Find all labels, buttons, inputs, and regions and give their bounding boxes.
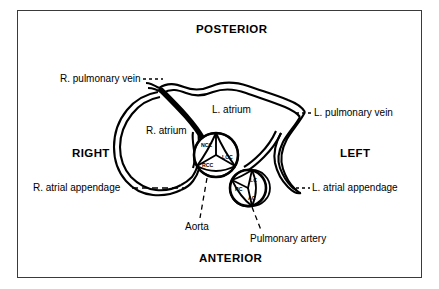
annotation-left-atrial-appendage: L. atrial appendage <box>312 183 398 193</box>
cusp-label-lc: LC <box>250 178 257 183</box>
orientation-label-posterior: POSTERIOR <box>196 24 267 36</box>
chamber-label-right-atrium: R. atrium <box>146 126 187 136</box>
annotation-pulmonary-artery: Pulmonary artery <box>250 234 326 244</box>
heart-cross-section-diagram <box>0 0 439 289</box>
annotation-right-atrial-appendage: R. atrial appendage <box>33 183 120 193</box>
leader-pulmonary-artery <box>252 207 261 230</box>
cusp-label-ac: AC <box>248 196 256 201</box>
cusp-label-lcc: LCC <box>222 155 233 160</box>
figure-root: POSTERIOR ANTERIOR RIGHT LEFT R. atrium … <box>0 0 439 289</box>
chamber-label-left-atrium: L. atrium <box>212 105 251 115</box>
cusp-label-ncc: NCC <box>201 143 212 148</box>
annotation-right-pulmonary-vein: R. pulmonary vein <box>60 74 141 84</box>
right-atrium-wall <box>114 92 181 195</box>
cusp-label-rc: RC <box>235 187 243 192</box>
left-atrial-appendage-wall <box>274 112 305 193</box>
annotation-aorta: Aorta <box>185 222 209 232</box>
orientation-label-left: LEFT <box>340 148 370 160</box>
leader-aorta <box>200 178 207 218</box>
orientation-label-anterior: ANTERIOR <box>199 253 262 265</box>
annotation-left-pulmonary-vein: L. pulmonary vein <box>314 108 393 118</box>
orientation-label-right: RIGHT <box>72 148 110 160</box>
cusp-label-rcc: RCC <box>202 163 213 168</box>
right-atrial-appendage-wall <box>181 167 199 190</box>
